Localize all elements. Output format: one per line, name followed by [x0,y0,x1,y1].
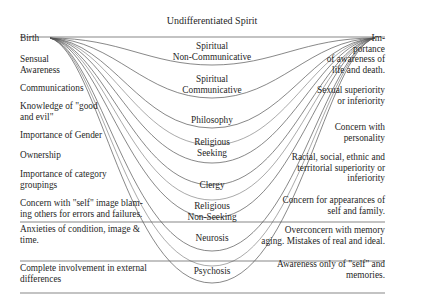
left-label-birth: Birth [20,33,39,44]
center-label-religious-non-seeking: ReligiousNon-Seeking [187,201,236,222]
right-label-concern-personality: Concern withpersonality [335,122,385,143]
left-label-category-groupings: Importance of categorygroupings [20,169,107,190]
left-label-knowledge-good-evil: Knowledge of "goodand evil" [20,101,98,122]
center-label-psychosis: Psychosis [194,266,231,277]
left-label-self-image: Concern with "self" image blam-ing other… [20,198,143,219]
right-label-sexual-superiority: Sexual superiorityor inferiority [317,85,385,106]
right-label-appearances: Concern for appearances ofself and famil… [283,195,385,216]
left-label-external-differences: Complete involvement in externaldifferen… [20,263,147,284]
left-label-sensual-awareness: SensualAwareness [20,54,60,75]
center-label-philosophy: Philosophy [191,115,233,126]
center-label-neurosis: Neurosis [195,233,228,244]
center-label-religious-seeking: ReligiousSeeking [194,137,230,158]
right-label-awareness-self: Awareness only of "self" andmemories. [277,259,385,280]
left-label-importance-gender: Importance of Gender [20,130,102,141]
left-label-anxieties: Anxieties of condition, image &time. [20,224,140,245]
center-label-spiritual-communicative: SpiritualCommunicative [182,74,241,95]
center-label-clergy: Clergy [199,180,224,191]
left-label-communications: Communications [20,83,84,94]
center-label-spiritual-non-communicative: SpiritualNon-Communicative [173,41,252,62]
right-label-racial-social-ethnic: Racial, social, ethnic andterritorial su… [292,152,385,184]
right-label-overconcern-memory: Overconcern with memoryaging. Mistakes o… [261,225,385,246]
right-label-awareness-life-death: Im-portanceof awareness oflife and death… [327,33,385,75]
left-label-ownership: Ownership [20,150,61,161]
